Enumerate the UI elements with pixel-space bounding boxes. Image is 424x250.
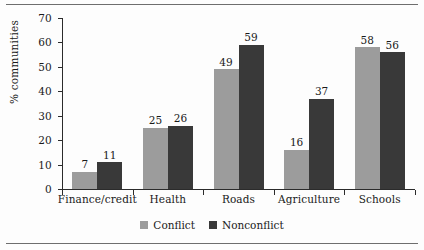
category-label: Schools — [359, 194, 401, 205]
x-separator-tick-3 — [274, 190, 275, 195]
bar[interactable]: 49 — [214, 69, 239, 189]
category-label: Agriculture — [278, 194, 340, 205]
y-axis-title: % communities — [8, 20, 20, 104]
x-separator-tick-5 — [415, 190, 416, 195]
y-tick-label-0: 0 — [45, 184, 52, 195]
legend-label-nonconflict: Nonconflict — [222, 219, 284, 231]
plot-area: 010203040506070 7112526495916375856 Fina… — [62, 18, 415, 190]
bar[interactable]: 26 — [168, 126, 193, 190]
category-label: Roads — [222, 194, 255, 205]
bar-value-label: 7 — [81, 159, 88, 170]
top-divider-rule — [6, 4, 418, 5]
bar-value-label: 25 — [149, 115, 162, 126]
bar-value-label: 11 — [103, 150, 116, 161]
bar-group: 4959 — [214, 18, 264, 189]
bar-value-label: 59 — [244, 32, 257, 43]
bar-group: 2526 — [143, 18, 193, 189]
legend-item-nonconflict[interactable]: Nonconflict — [209, 219, 284, 231]
legend-swatch-icon-nonconflict — [209, 221, 217, 229]
y-tick-70: 70 — [58, 18, 62, 19]
chart-figure: % communities 010203040506070 7112526495… — [0, 0, 424, 250]
y-tick-label-30: 30 — [38, 110, 52, 121]
bar-value-label: 37 — [315, 86, 328, 97]
y-tick-label-70: 70 — [38, 13, 52, 24]
y-axis-line — [62, 18, 63, 190]
bar-value-label: 26 — [174, 113, 187, 124]
y-tick-label-40: 40 — [38, 86, 52, 97]
category-label: Finance/credit — [58, 194, 137, 205]
x-axis-line — [62, 189, 415, 190]
bar-value-label: 58 — [361, 35, 374, 46]
legend-item-conflict[interactable]: Conflict — [140, 219, 195, 231]
x-separator-tick-2 — [203, 190, 204, 195]
bar[interactable]: 59 — [239, 45, 264, 189]
bottom-divider-rule — [6, 243, 418, 244]
y-tick-40: 40 — [58, 91, 62, 92]
y-tick-50: 50 — [58, 67, 62, 68]
bar-group: 5856 — [355, 18, 405, 189]
bar[interactable]: 56 — [380, 52, 405, 189]
y-tick-60: 60 — [58, 42, 62, 43]
bar[interactable]: 7 — [72, 172, 97, 189]
x-separator-tick-4 — [344, 190, 345, 195]
category-label: Health — [150, 194, 187, 205]
y-tick-30: 30 — [58, 116, 62, 117]
bar-group: 1637 — [284, 18, 334, 189]
bar-value-label: 16 — [290, 137, 303, 148]
y-tick-label-60: 60 — [38, 37, 52, 48]
bar-group: 711 — [72, 18, 122, 189]
legend-swatch-icon-conflict — [140, 221, 148, 229]
y-tick-label-50: 50 — [38, 62, 52, 73]
bar[interactable]: 37 — [309, 99, 334, 189]
bar[interactable]: 25 — [143, 128, 168, 189]
legend-label-conflict: Conflict — [153, 219, 195, 231]
bar[interactable]: 11 — [97, 162, 122, 189]
y-tick-label-20: 20 — [38, 135, 52, 146]
y-tick-20: 20 — [58, 140, 62, 141]
bar-value-label: 56 — [386, 40, 399, 51]
bar-value-label: 49 — [219, 57, 232, 68]
y-tick-label-10: 10 — [38, 159, 52, 170]
bar[interactable]: 16 — [284, 150, 309, 189]
chart-legend: Conflict Nonconflict — [0, 219, 424, 231]
y-tick-10: 10 — [58, 165, 62, 166]
bar[interactable]: 58 — [355, 47, 380, 189]
